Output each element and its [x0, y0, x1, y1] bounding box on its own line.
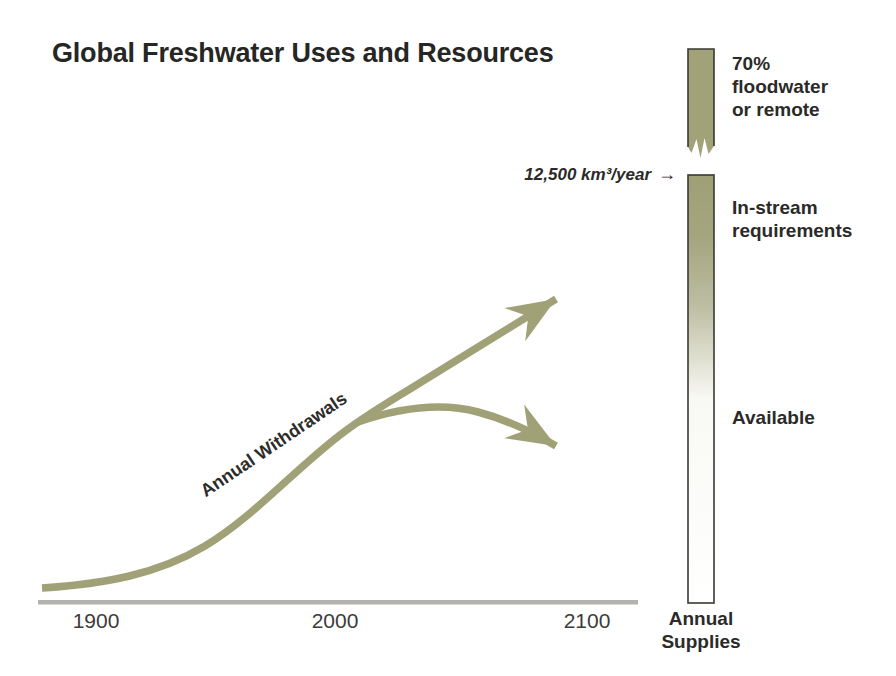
x-tick-2100: 2100 [547, 609, 627, 633]
supply-total-annotation: 12,500 km³/year→ [440, 164, 676, 185]
chart-title: Global Freshwater Uses and Resources [52, 38, 554, 69]
supply-bar-axis-label: Annual Supplies [641, 608, 761, 654]
available-segment-label: Available [732, 406, 815, 429]
supply-total-text: 12,500 km³/year [524, 165, 651, 184]
supply-bar-main [688, 175, 714, 603]
x-tick-1900: 1900 [56, 609, 136, 633]
x-tick-2000: 2000 [295, 609, 375, 633]
arrow-right-icon: → [658, 164, 676, 184]
floodwater-segment-label: 70% floodwater or remote [732, 52, 828, 122]
x-axis-line [38, 600, 638, 605]
withdrawals-growth-curve [42, 299, 556, 588]
withdrawals-leveling-curve [358, 407, 556, 446]
instream-segment-label: In-stream requirements [732, 196, 852, 242]
supply-bar-floodwater-segment [688, 49, 714, 158]
